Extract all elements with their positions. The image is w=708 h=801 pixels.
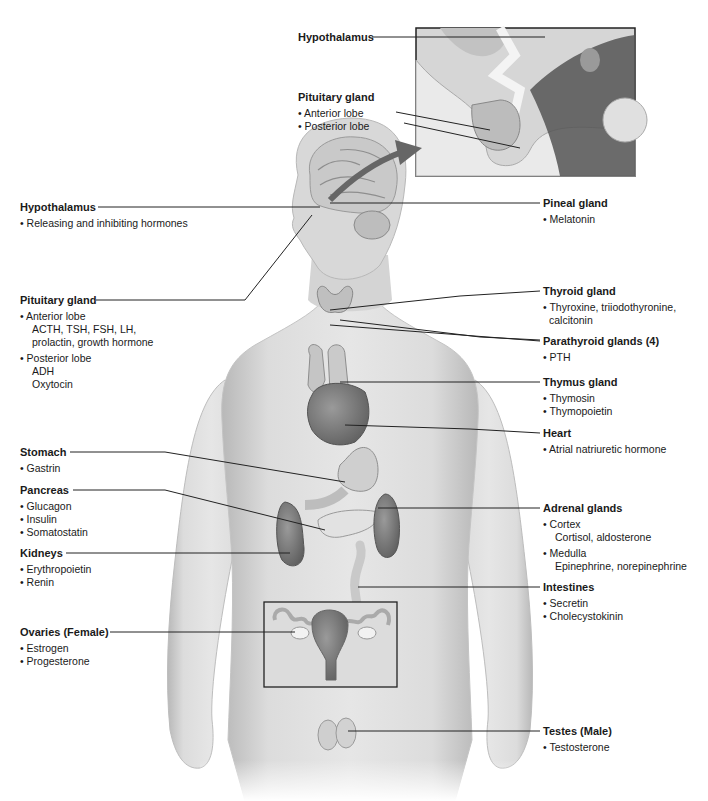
- heart-title: Heart: [543, 427, 666, 440]
- pancreas-hormone-3: • Somatostatin: [20, 526, 88, 539]
- parathyroid-title: Parathyroid glands (4): [543, 335, 659, 348]
- pituitary-posterior-hormone-1: ADH: [20, 365, 153, 378]
- inset-pituitary-label: Pituitary gland • Anterior lobe • Poster…: [298, 91, 374, 133]
- thyroid-hormones: • Thyroxine, triiodothyronine,: [543, 301, 676, 314]
- hypothalamus-title: Hypothalamus: [20, 201, 188, 214]
- testes-title: Testes (Male): [543, 725, 612, 738]
- stomach-hormone: • Gastrin: [20, 462, 66, 475]
- label-ovaries: Ovaries (Female) • Estrogen • Progestero…: [20, 626, 109, 668]
- label-thyroid: Thyroid gland • Thyroxine, triiodothyron…: [543, 285, 676, 327]
- ovaries-hormone-2: • Progesterone: [20, 655, 109, 668]
- kidneys-hormone-1: • Erythropoietin: [20, 563, 91, 576]
- adrenal-medulla: • Medulla: [543, 547, 687, 560]
- label-pineal: Pineal gland • Melatonin: [543, 197, 608, 226]
- adrenal-medulla-hormones: Epinephrine, norepinephrine: [543, 560, 687, 573]
- pituitary-anterior-hormones-2: prolactin, growth hormone: [20, 336, 153, 349]
- label-kidneys: Kidneys • Erythropoietin • Renin: [20, 547, 91, 589]
- inset-hypothalamus-label: Hypothalamus: [298, 31, 374, 47]
- label-intestines: Intestines • Secretin • Cholecystokinin: [543, 581, 623, 623]
- parathyroid-hormone: • PTH: [543, 351, 659, 364]
- label-adrenal: Adrenal glands • Cortex Cortisol, aldost…: [543, 502, 687, 573]
- heart-hormone: • Atrial natriuretic hormone: [543, 443, 666, 456]
- intestines-hormone-1: • Secretin: [543, 597, 623, 610]
- hypothalamus-hormone: • Releasing and inhibiting hormones: [20, 217, 188, 230]
- ovaries-hormone-1: • Estrogen: [20, 642, 109, 655]
- label-hypothalamus: Hypothalamus • Releasing and inhibiting …: [20, 201, 188, 230]
- kidneys-title: Kidneys: [20, 547, 91, 560]
- thyroid-title: Thyroid gland: [543, 285, 676, 298]
- label-stomach: Stomach • Gastrin: [20, 446, 66, 475]
- inset-hypothalamus-title: Hypothalamus: [298, 31, 374, 44]
- label-pancreas: Pancreas • Glucagon • Insulin • Somatost…: [20, 484, 88, 539]
- pancreas-hormone-2: • Insulin: [20, 513, 88, 526]
- inset-posterior-lobe: • Posterior lobe: [298, 120, 374, 133]
- pituitary-title: Pituitary gland: [20, 294, 153, 307]
- label-testes: Testes (Male) • Testosterone: [543, 725, 612, 754]
- inset-pituitary-title: Pituitary gland: [298, 91, 374, 104]
- ovaries-title: Ovaries (Female): [20, 626, 109, 639]
- thymus-title: Thymus gland: [543, 376, 618, 389]
- pituitary-anterior: • Anterior lobe: [20, 310, 153, 323]
- pituitary-anterior-hormones-1: ACTH, TSH, FSH, LH,: [20, 323, 153, 336]
- pituitary-inset: [416, 28, 647, 176]
- pituitary-posterior-hormone-2: Oxytocin: [20, 378, 153, 391]
- pancreas-title: Pancreas: [20, 484, 88, 497]
- label-parathyroid: Parathyroid glands (4) • PTH: [543, 335, 659, 364]
- testes-hormone: • Testosterone: [543, 741, 612, 754]
- inset-anterior-lobe: • Anterior lobe: [298, 107, 374, 120]
- thymus-hormone-2: • Thymopoietin: [543, 405, 618, 418]
- thymus-hormone-1: • Thymosin: [543, 392, 618, 405]
- label-pituitary: Pituitary gland • Anterior lobe ACTH, TS…: [20, 294, 153, 391]
- pineal-title: Pineal gland: [543, 197, 608, 210]
- adrenal-cortex-hormones: Cortisol, aldosterone: [543, 531, 687, 544]
- stomach-title: Stomach: [20, 446, 66, 459]
- pineal-hormone: • Melatonin: [543, 213, 608, 226]
- label-heart: Heart • Atrial natriuretic hormone: [543, 427, 666, 456]
- pituitary-posterior: • Posterior lobe: [20, 352, 153, 365]
- kidneys-hormone-2: • Renin: [20, 576, 91, 589]
- adrenal-cortex: • Cortex: [543, 518, 687, 531]
- intestines-hormone-2: • Cholecystokinin: [543, 610, 623, 623]
- intestines-title: Intestines: [543, 581, 623, 594]
- thyroid-hormones-cont: calcitonin: [543, 314, 676, 327]
- adrenal-title: Adrenal glands: [543, 502, 687, 515]
- label-thymus: Thymus gland • Thymosin • Thymopoietin: [543, 376, 618, 418]
- pancreas-hormone-1: • Glucagon: [20, 500, 88, 513]
